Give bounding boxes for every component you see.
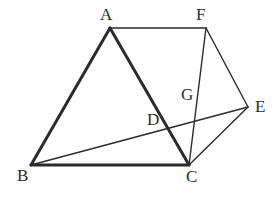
segment-FE (206, 28, 248, 107)
geometry-figure: AFBCEDG (0, 0, 280, 199)
segment-EC (189, 107, 248, 165)
segment-AB (31, 28, 110, 165)
vertex-label-A: A (100, 6, 112, 23)
segment-AC (110, 28, 189, 165)
vertex-label-C: C (186, 168, 198, 185)
segments-group (31, 28, 248, 165)
segment-BE (31, 107, 248, 165)
vertex-label-G: G (181, 86, 193, 103)
vertex-label-F: F (196, 6, 206, 23)
figure-canvas (0, 0, 280, 199)
vertex-label-E: E (255, 98, 266, 115)
vertex-label-D: D (147, 111, 159, 128)
vertex-label-B: B (17, 167, 29, 184)
